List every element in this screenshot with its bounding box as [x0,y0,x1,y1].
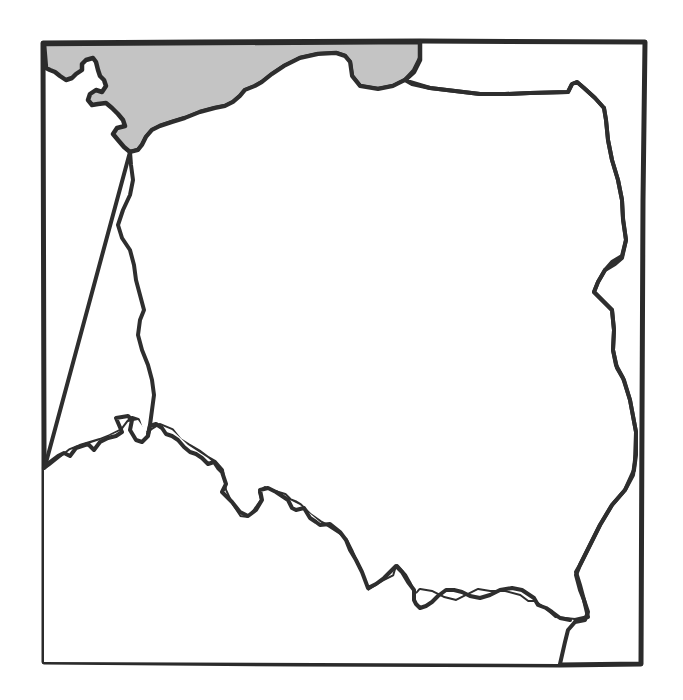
poland-outline-map [0,0,683,700]
